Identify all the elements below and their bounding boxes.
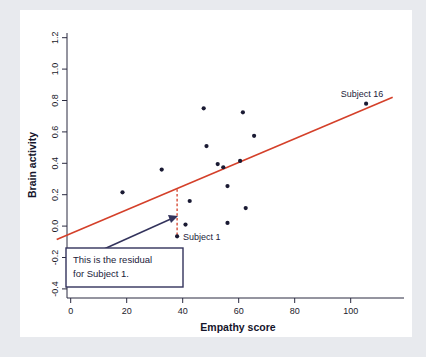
annotation-line-2: for Subject 1. [73, 268, 129, 279]
data-points-group [120, 102, 368, 239]
x-tick-label: 60 [234, 306, 244, 316]
data-point [160, 167, 164, 171]
scatter-chart: 1.2 1.0 0.8 0.6 0.4 0.2 0.0 -0.2 -0.4 Br… [0, 0, 426, 357]
data-point [238, 159, 242, 163]
annotation-arrow [104, 218, 173, 249]
point-labels-group: Subject 1Subject 16 [183, 89, 383, 243]
data-point [216, 162, 220, 166]
data-point [175, 234, 179, 238]
x-tick-label: 40 [178, 306, 188, 316]
point-label: Subject 16 [341, 89, 384, 99]
y-tick-label: 0.0 [50, 220, 60, 233]
data-point [244, 206, 248, 210]
x-tick-label: 100 [343, 306, 358, 316]
y-tick-label: 0.4 [50, 157, 60, 170]
data-point [120, 190, 124, 194]
data-point [221, 165, 225, 169]
y-axis-tick-labels: 1.2 1.0 0.8 0.6 0.4 0.2 0.0 -0.2 -0.4 [50, 31, 60, 296]
y-tick-label: 0.8 [50, 94, 60, 107]
x-tick-label: 20 [122, 306, 132, 316]
x-axis-tick-labels: 0 20 40 60 80 100 [68, 306, 358, 316]
data-point [241, 110, 245, 114]
x-axis-ticks [71, 298, 351, 303]
y-tick-label: 0.6 [50, 126, 60, 139]
data-point [188, 199, 192, 203]
annotation-line-1: This is the residual [73, 254, 152, 265]
data-point [252, 134, 256, 138]
chart-figure: 1.2 1.0 0.8 0.6 0.4 0.2 0.0 -0.2 -0.4 Br… [0, 0, 426, 357]
data-point [225, 184, 229, 188]
x-axis-title: Empathy score [200, 321, 275, 333]
data-point [183, 222, 187, 226]
x-tick-label: 80 [290, 306, 300, 316]
data-point [204, 144, 208, 148]
y-tick-label: 1.0 [50, 63, 60, 76]
data-point [364, 102, 368, 106]
y-axis-title: Brain activity [26, 132, 38, 198]
data-point [225, 221, 229, 225]
x-tick-label: 0 [68, 306, 73, 316]
y-tick-label: 0.2 [50, 188, 60, 201]
y-tick-label: -0.2 [50, 250, 60, 266]
y-tick-label: 1.2 [50, 31, 60, 44]
y-tick-label: -0.4 [50, 281, 60, 297]
point-label: Subject 1 [183, 232, 221, 242]
data-point [202, 106, 206, 110]
